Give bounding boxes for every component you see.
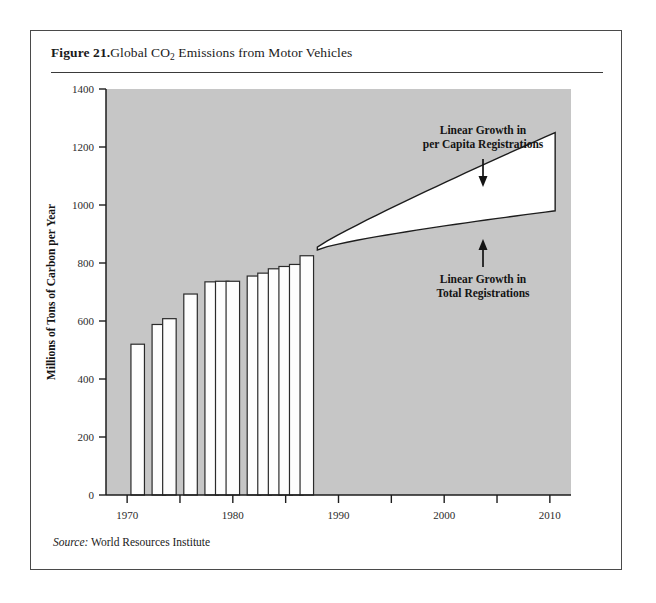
title-divider [51,72,603,73]
bar [131,344,145,495]
co2-emissions-chart: 0200400600800100012001400 19701980199020… [31,77,623,527]
x-tick-label: 2010 [539,509,562,521]
annotation-per-capita-line2: per Capita Registrations [423,138,544,151]
figure-card: Figure 21.Global CO2 Emissions from Moto… [30,30,622,570]
y-tick-label: 400 [78,373,95,385]
x-axis-ticks: 19701980199020002010 [116,495,561,521]
x-tick-label: 2000 [433,509,456,521]
source-note: Source: World Resources Institute [53,536,210,548]
y-tick-label: 800 [78,257,95,269]
figure-title-rest: Emissions from Motor Vehicles [175,45,353,60]
bar [300,256,314,495]
x-tick-label: 1970 [116,509,138,521]
figure-title-main: Global CO [110,45,170,60]
annotation-total-line2: Total Registrations [436,287,530,300]
y-axis-ticks: 0200400600800100012001400 [72,83,106,501]
y-tick-label: 1000 [72,199,95,211]
bar [184,294,198,495]
bar [163,319,177,495]
y-tick-label: 600 [78,315,95,327]
annotation-total-line1: Linear Growth in [440,273,527,285]
y-tick-label: 200 [78,431,95,443]
figure-number: Figure 21. [51,45,110,60]
source-text: World Resources Institute [88,536,210,548]
x-tick-label: 1980 [222,509,245,521]
annotation-per-capita-line1: Linear Growth in [440,124,527,136]
y-tick-label: 1200 [72,141,95,153]
bar [226,281,240,495]
chart-area: 0200400600800100012001400 19701980199020… [31,77,623,527]
figure-title: Figure 21.Global CO2 Emissions from Moto… [51,45,352,62]
y-axis-title: Millions of Tons of Carbon per Year [45,204,58,380]
x-tick-label: 1990 [328,509,351,521]
source-label: Source: [53,536,88,548]
y-tick-label: 0 [89,489,95,501]
y-tick-label: 1400 [72,83,95,95]
